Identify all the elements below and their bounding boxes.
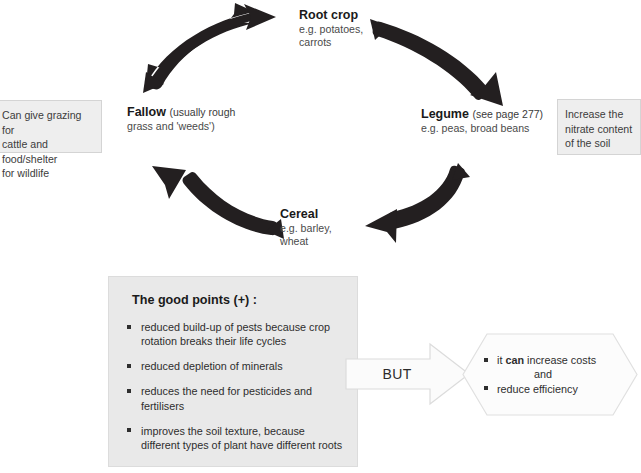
arrow-cereal-to-fallow bbox=[152, 166, 284, 239]
side-note-legume-line-2: nitrate content bbox=[565, 122, 633, 137]
square-bullet-icon bbox=[484, 386, 488, 390]
drawbacks-item-suffix: increase costs bbox=[524, 354, 596, 366]
arrow-root-crop-to-legume bbox=[370, 19, 503, 106]
side-note-legume: Increase the nitrate content of the soil bbox=[557, 99, 641, 155]
drawbacks-item-text: reduce efficiency bbox=[497, 383, 578, 395]
square-bullet-icon bbox=[484, 358, 488, 362]
cycle-node-legume-page-ref: (see page 277) bbox=[472, 108, 543, 120]
cycle-node-cereal-sub-1: e.g. barley, bbox=[280, 222, 332, 235]
square-bullet-icon bbox=[127, 325, 131, 329]
cycle-node-fallow-sub-1: grass and 'weeds') bbox=[127, 120, 235, 133]
drawbacks-item-emphasis: can bbox=[505, 354, 524, 366]
side-note-fallow-line-1: Can give grazing for bbox=[2, 108, 94, 137]
drawbacks-connector: and bbox=[484, 367, 624, 381]
good-points-list: reduced build-up of pests because crop r… bbox=[127, 320, 343, 452]
good-points-item-text: reduced depletion of minerals bbox=[141, 360, 283, 372]
drawbacks-item: reduce efficiency bbox=[484, 382, 624, 396]
good-points-panel: The good points (+) : reduced build-up o… bbox=[108, 276, 358, 467]
but-arrow-shape: BUT bbox=[345, 341, 471, 407]
drawbacks-hexagon: it can increase costs and reduce efficie… bbox=[462, 333, 638, 416]
cycle-node-fallow: Fallow (usually rough grass and 'weeds') bbox=[127, 105, 235, 133]
drawbacks-item: it can increase costs bbox=[484, 353, 624, 367]
good-points-item: improves the soil texture, because diffe… bbox=[127, 424, 343, 452]
side-note-fallow-line-2: cattle and food/shelter bbox=[2, 137, 94, 166]
good-points-item: reduced depletion of minerals bbox=[127, 359, 343, 373]
side-note-legume-line-3: of the soil bbox=[565, 136, 633, 151]
square-bullet-icon bbox=[127, 428, 131, 432]
good-points-item-text: reduced build-up of pests because crop r… bbox=[141, 321, 330, 347]
good-points-item-text: improves the soil texture, because diffe… bbox=[141, 425, 342, 451]
good-points-item: reduced build-up of pests because crop r… bbox=[127, 320, 343, 348]
cycle-node-root-crop-sub-1: e.g. potatoes, bbox=[299, 23, 363, 36]
cycle-node-cereal: Cereal e.g. barley, wheat bbox=[280, 207, 332, 248]
but-arrow-label: BUT bbox=[345, 341, 449, 407]
cycle-node-cereal-headline: Cereal bbox=[280, 207, 332, 222]
square-bullet-icon bbox=[127, 364, 131, 368]
square-bullet-icon bbox=[127, 389, 131, 393]
cycle-node-legume-sub-1: e.g. peas, broad beans bbox=[421, 122, 543, 135]
good-points-item: reduces the need for pesticides and fert… bbox=[127, 384, 343, 412]
arrow-fallow-to-root-crop bbox=[143, 3, 276, 93]
arrow-legume-to-cereal bbox=[365, 163, 470, 243]
cycle-node-cereal-sub-2: wheat bbox=[280, 235, 332, 248]
side-note-legume-line-1: Increase the bbox=[565, 107, 633, 122]
cycle-node-root-crop: Root crop e.g. potatoes, carrots bbox=[299, 8, 363, 49]
side-note-fallow-line-3: for wildlife bbox=[2, 166, 94, 181]
side-note-fallow: Can give grazing for cattle and food/she… bbox=[0, 100, 102, 153]
good-points-title: The good points (+) : bbox=[132, 293, 343, 307]
drawbacks-list-top: it can increase costs bbox=[484, 353, 624, 367]
cycle-node-fallow-note-open: (usually rough bbox=[169, 106, 235, 118]
cycle-node-legume: Legume (see page 277) e.g. peas, broad b… bbox=[421, 107, 543, 135]
cycle-node-root-crop-sub-2: carrots bbox=[299, 36, 363, 49]
drawbacks-content: it can increase costs and reduce efficie… bbox=[462, 333, 638, 416]
cycle-node-fallow-headline: Fallow (usually rough bbox=[127, 105, 235, 120]
cycle-node-root-crop-headline: Root crop bbox=[299, 8, 363, 23]
good-points-item-text: reduces the need for pesticides and fert… bbox=[141, 385, 312, 411]
drawbacks-list-bottom: reduce efficiency bbox=[484, 382, 624, 396]
cycle-node-legume-headline: Legume (see page 277) bbox=[421, 107, 543, 122]
